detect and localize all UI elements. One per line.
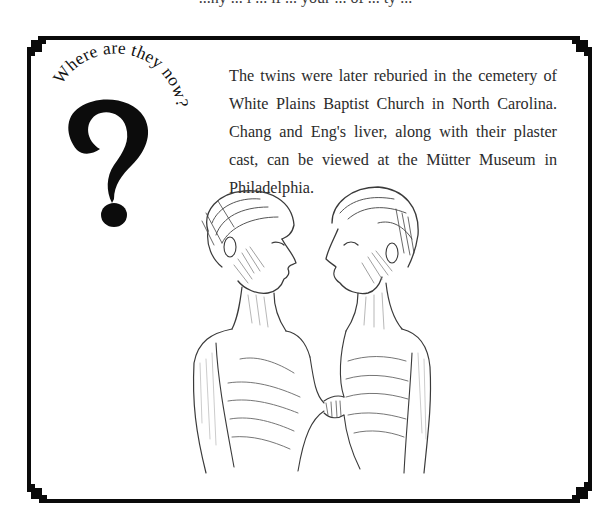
where-are-they-now-callout: Where are they now? — [40, 45, 190, 230]
right-twin-figure — [326, 187, 431, 473]
question-mark-icon: Where are they now? — [40, 45, 190, 230]
left-twin-figure — [194, 191, 325, 473]
body-paragraph: The twins were later reburied in the cem… — [229, 62, 557, 202]
cut-off-top-text: ...ny ... i ... lf ... your ... of ... t… — [0, 0, 611, 7]
frame-top-border — [42, 36, 573, 40]
frame-right-border — [588, 53, 592, 483]
frame-left-border — [27, 53, 31, 485]
svg-text:Where are they now?: Where are they now? — [49, 45, 190, 109]
frame-corner-bottom-left — [27, 484, 47, 504]
twins-sketch-illustration — [182, 183, 442, 483]
curved-heading: Where are they now? — [49, 45, 190, 109]
frame-bottom-border — [42, 499, 575, 503]
frame-corner-bottom-right — [572, 482, 592, 504]
frame-corner-top-right — [572, 36, 592, 56]
